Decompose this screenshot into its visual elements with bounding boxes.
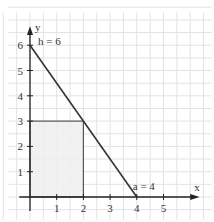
y-tick-label: 3 <box>18 115 24 127</box>
y-tick-label: 4 <box>18 90 24 102</box>
x-tick-label: 5 <box>161 202 167 214</box>
y-tick-label: 6 <box>18 39 24 51</box>
y-tick-label: 2 <box>18 140 24 152</box>
x-tick-label: 3 <box>107 202 113 214</box>
x-tick-label: 4 <box>134 202 140 214</box>
y-tick-label: 5 <box>18 65 24 77</box>
x-tick-label: 2 <box>81 202 87 214</box>
shaded-rectangle <box>30 121 83 197</box>
y-axis-label: y <box>35 21 41 33</box>
y-tick-label: 1 <box>18 166 24 178</box>
height-annotation: h = 6 <box>38 35 61 47</box>
chart: 12345123456 x y h = 6 a = 4 <box>0 0 214 222</box>
base-annotation: a = 4 <box>133 180 156 192</box>
x-tick-label: 1 <box>54 202 60 214</box>
x-axis-label: x <box>194 181 200 193</box>
